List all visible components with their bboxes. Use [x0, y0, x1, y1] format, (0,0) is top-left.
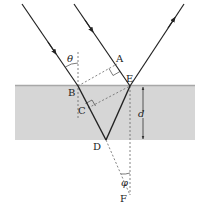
- arrow-outgoing: [168, 19, 174, 28]
- label-B: B: [68, 87, 75, 98]
- label-C: C: [78, 105, 86, 116]
- incident-ray-2: [74, 4, 130, 86]
- label-F: F: [120, 193, 127, 204]
- arrow-ray-2: [85, 20, 92, 31]
- wavefront-BA: [78, 64, 117, 86]
- label-E: E: [126, 73, 133, 84]
- outgoing-ray: [130, 4, 184, 86]
- film-slab: [15, 85, 195, 140]
- phi-arc: [121, 173, 130, 174]
- arrow-ray-1: [48, 42, 55, 53]
- thin-film-diagram: A E B C D F θ φ d: [0, 0, 204, 221]
- label-D: D: [93, 141, 101, 152]
- label-A: A: [115, 53, 124, 64]
- label-theta: θ: [67, 53, 73, 64]
- label-d: d: [138, 108, 144, 119]
- label-phi: φ: [121, 177, 128, 188]
